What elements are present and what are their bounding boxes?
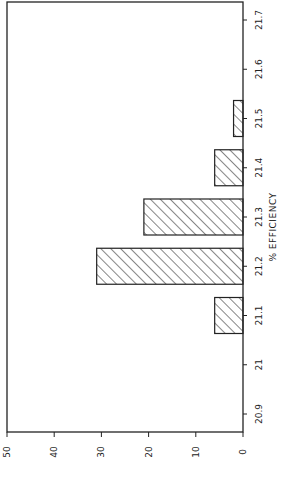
x-axis-title: % EFFICIENCY [268,192,278,261]
bar-21.1 [215,298,243,334]
bar-21.2 [97,248,243,284]
category-tick-label: 21.3 [254,207,264,227]
bar-21.4 [215,150,243,186]
value-tick-label: 10 [191,446,201,458]
bar-21.5 [234,101,243,137]
value-tick-label: 20 [144,446,154,458]
category-tick-label: 21.7 [254,10,264,30]
bar-21.3 [144,199,243,235]
value-tick-label: 50 [2,446,12,458]
category-tick-label: 21.4 [254,157,264,177]
value-axis: 01020304050 [2,432,248,458]
value-tick-label: 0 [238,449,248,455]
category-tick-label: 20.9 [254,404,264,424]
category-tick-label: 21 [254,359,264,370]
category-axis: 20.92121.121.221.321.421.521.621.7 [243,10,264,424]
bars-group [97,101,243,334]
category-tick-label: 21.2 [254,256,264,276]
category-tick-label: 21.6 [254,59,264,79]
value-tick-label: 30 [96,446,106,458]
category-tick-label: 21.5 [254,108,264,128]
category-tick-label: 21.1 [254,305,264,325]
efficiency-histogram: 20.92121.121.221.321.421.521.621.7 01020… [0,0,296,478]
value-tick-label: 40 [49,446,59,458]
